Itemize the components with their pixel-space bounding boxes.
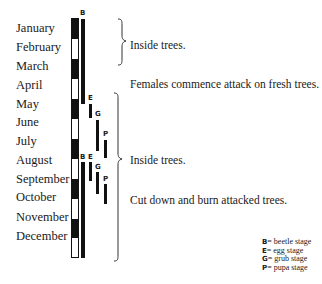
calendar-seg-december (72, 238, 78, 257)
month-august: August (16, 153, 52, 167)
stage-label-pupa: P (103, 131, 108, 138)
stage-bar-beetle-2 (81, 162, 85, 258)
month-july: July (16, 134, 37, 148)
calendar-seg-august (72, 159, 78, 179)
legend: B= beetle stage E= egg stage G= grub sta… (262, 238, 311, 272)
stage-bar-pupa (104, 140, 107, 158)
stage-bar-beetle (81, 19, 85, 104)
month-may: May (16, 97, 39, 111)
calendar-seg-february (72, 39, 78, 59)
calendar-seg-june (72, 119, 78, 139)
calendar-seg-january (72, 19, 78, 39)
month-january: January (16, 21, 55, 35)
stage-bar-egg (89, 104, 92, 118)
stage-label-grub-2: G (95, 164, 101, 171)
stage-bar-grub-2 (96, 172, 99, 194)
calendar-seg-april (72, 79, 78, 99)
calendar-seg-october (72, 199, 78, 219)
month-september: September (16, 172, 69, 186)
stage-bar-grub (96, 120, 99, 151)
note-females-attack: Females commence attack on fresh trees. (130, 78, 319, 91)
calendar-seg-september (72, 179, 78, 199)
month-december: December (16, 229, 67, 243)
calendar-bar (71, 18, 79, 258)
calendar-seg-july (72, 139, 78, 159)
month-february: February (16, 40, 61, 54)
calendar-seg-november (72, 219, 78, 238)
stage-bar-pupa-2 (104, 184, 107, 204)
month-april: April (16, 78, 42, 92)
stage-label-beetle: B (80, 10, 85, 17)
brace-inside-trees-2-icon (114, 93, 122, 261)
stage-label-beetle-2: B (80, 154, 85, 161)
month-october: October (16, 190, 56, 204)
stage-label-pupa-2: P (103, 176, 108, 183)
month-march: March (16, 59, 49, 73)
note-inside-trees-2: Inside trees. (130, 154, 186, 167)
stage-label-egg: E (88, 95, 93, 102)
brace-icons (110, 15, 130, 265)
month-november: November (16, 210, 69, 224)
stage-label-egg-2: E (88, 154, 93, 161)
note-cut-burn: Cut down and burn attacked trees. (130, 194, 287, 207)
calendar-seg-may (72, 99, 78, 119)
stage-bar-egg-2 (89, 162, 92, 181)
brace-inside-trees-1-icon (118, 19, 126, 65)
calendar-seg-march (72, 59, 78, 79)
stage-label-grub: G (95, 111, 101, 118)
month-june: June (16, 115, 39, 129)
note-inside-trees-1: Inside trees. (130, 39, 186, 52)
legend-item-pupa: P= pupa stage (262, 264, 311, 273)
